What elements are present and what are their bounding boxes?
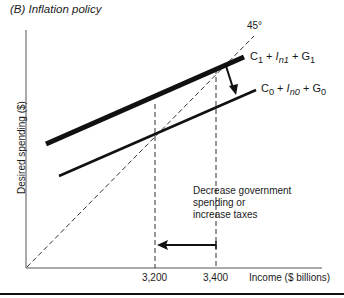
- y-axis-label: Desired spending ($): [16, 83, 27, 213]
- tick-3400: 3,400: [203, 272, 228, 283]
- policy-annotation: Decrease government spending or increase…: [193, 185, 291, 221]
- 45-degree-line: [27, 36, 254, 267]
- ae-line-low: [59, 90, 256, 176]
- tick-3200: 3,200: [142, 272, 167, 283]
- diagram-canvas: [0, 0, 344, 298]
- ae-low-label: C0 + In0 + G0: [261, 82, 326, 97]
- x-axis-label: Income ($ billions): [249, 272, 330, 283]
- shift-arrow-head: [229, 84, 238, 95]
- ae-line-high: [46, 57, 244, 144]
- 45-degree-label: 45°: [247, 20, 262, 31]
- shift-arrow: [226, 66, 233, 88]
- ae-high-label: C1 + In1 + G1: [250, 50, 315, 65]
